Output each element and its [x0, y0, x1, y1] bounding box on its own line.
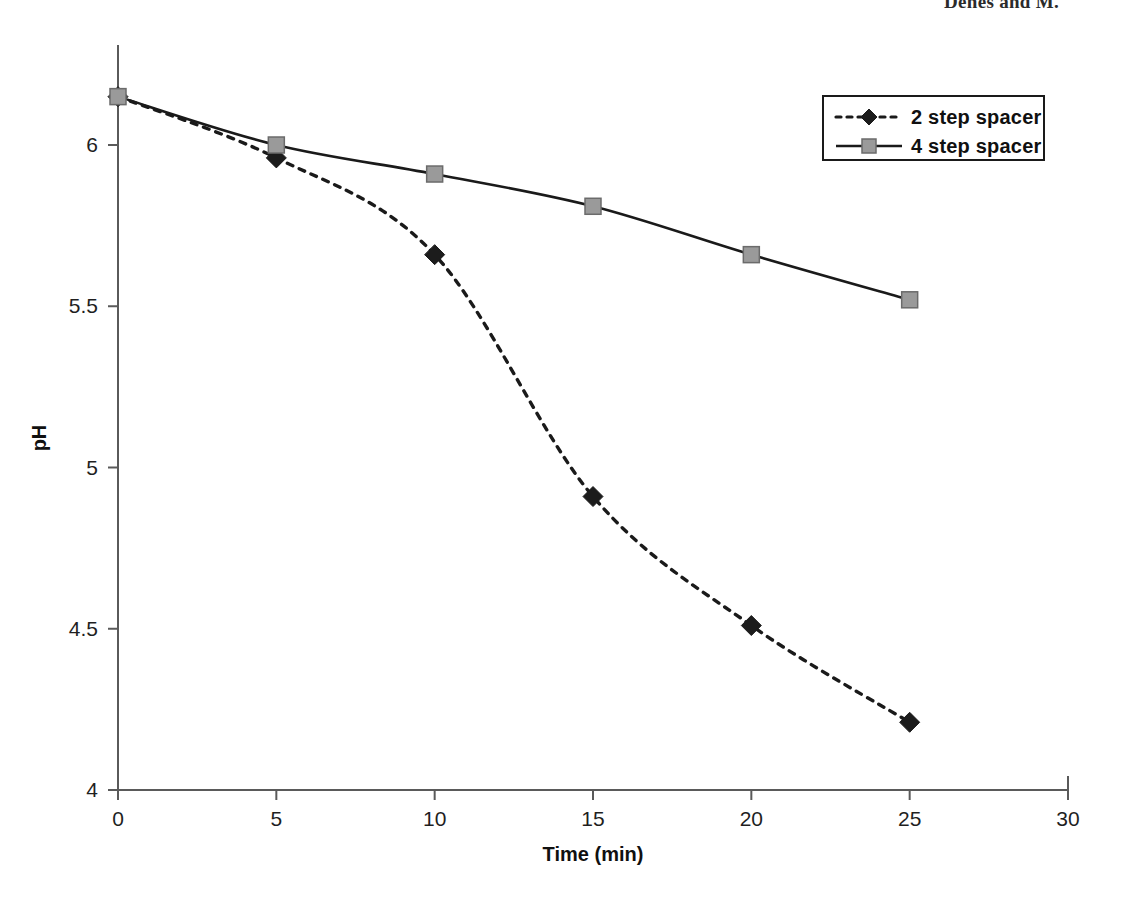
x-tick-label: 10	[423, 807, 446, 830]
legend-marker-square	[862, 139, 876, 153]
x-tick-label: 15	[581, 807, 604, 830]
y-tick-label: 4.5	[69, 617, 98, 640]
data-point-marker	[741, 616, 761, 636]
ph-vs-time-chart: 44.555.56 051015202530 Time (min) pH 2 s…	[0, 0, 1121, 902]
x-tick-label: 0	[112, 807, 124, 830]
y-tick-label: 5.5	[69, 294, 98, 317]
x-tick-label: 5	[270, 807, 282, 830]
data-point-marker	[427, 166, 443, 182]
x-tick-group: 051015202530	[112, 790, 1080, 830]
y-tick-label: 4	[86, 778, 98, 801]
y-tick-label: 5	[86, 456, 98, 479]
y-tick-label: 6	[86, 133, 98, 156]
x-axis-title: Time (min)	[543, 843, 644, 865]
series-4-step-spacer	[110, 89, 918, 308]
x-tick-label: 20	[740, 807, 763, 830]
series-line	[118, 97, 910, 723]
x-tick-label: 30	[1056, 807, 1079, 830]
x-tick-label: 25	[898, 807, 921, 830]
data-point-marker	[268, 137, 284, 153]
y-axis-title: pH	[28, 425, 50, 452]
series-line	[118, 97, 910, 300]
y-tick-group: 44.555.56	[69, 133, 118, 801]
series-2-step-spacer	[108, 87, 920, 733]
series-layer	[108, 87, 920, 733]
chart-canvas: 44.555.56 051015202530 Time (min) pH 2 s…	[0, 0, 1121, 902]
legend-label-4-step-spacer: 4 step spacer	[911, 135, 1041, 157]
legend-item-4-step-spacer[interactable]: 4 step spacer	[836, 135, 1041, 157]
data-point-marker	[902, 292, 918, 308]
data-point-marker	[900, 712, 920, 732]
chart-legend: 2 step spacer 4 step spacer	[823, 96, 1044, 160]
data-point-marker	[585, 198, 601, 214]
legend-label-2-step-spacer: 2 step spacer	[911, 106, 1041, 128]
data-point-marker	[743, 247, 759, 263]
data-point-marker	[110, 89, 126, 105]
